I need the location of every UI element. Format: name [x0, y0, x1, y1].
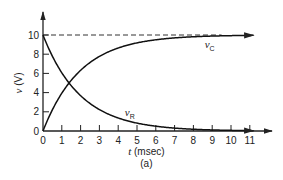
- curves: [43, 35, 254, 131]
- x-tick-label: 10: [225, 135, 237, 146]
- y-axis-label: v (V): [12, 73, 24, 94]
- vr-label: vR: [125, 106, 135, 120]
- axes: [43, 12, 272, 131]
- y-tick-label: 10: [28, 30, 40, 41]
- vc-curve: [43, 35, 254, 131]
- x-tick-label: 1: [59, 135, 65, 146]
- y-tick-label: 2: [33, 106, 39, 117]
- x-tick-label: 2: [78, 135, 84, 146]
- x-tick-label: 7: [172, 135, 178, 146]
- vr-curve: [43, 35, 254, 131]
- x-tick-label: 11: [245, 135, 256, 146]
- x-tick-label: 5: [134, 135, 140, 146]
- x-tick-label: 9: [209, 135, 215, 146]
- y-tick-label: 4: [33, 87, 39, 98]
- x-tick-label: 8: [191, 135, 197, 146]
- vc-label: vC: [205, 38, 215, 52]
- x-tick-label: 3: [97, 135, 103, 146]
- x-tick-label: 6: [153, 135, 159, 146]
- chart: 012345678910110246810 vCvRt (msec)v (V)(…: [0, 0, 283, 180]
- y-tick-label: 6: [33, 68, 39, 79]
- y-tick-label: 8: [33, 49, 39, 60]
- x-tick-label: 4: [115, 135, 121, 146]
- x-axis-label: t (msec): [128, 145, 164, 157]
- ticks: 012345678910110246810: [28, 30, 256, 147]
- y-tick-label: 0: [33, 126, 39, 137]
- x-tick-label: 0: [40, 135, 46, 146]
- figure-caption: (a): [140, 158, 152, 169]
